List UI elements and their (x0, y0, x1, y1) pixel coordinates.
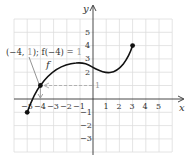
y-tick: −1 (80, 108, 92, 117)
y-tick: −3 (80, 134, 92, 143)
function-graph: x y −5 −4 −3 −2 −1 1 2 3 4 5 5 4 3 2 −1 … (0, 0, 189, 155)
y-tick: 3 (85, 54, 90, 63)
y-axis-value-marker: 1 (95, 81, 100, 90)
x-axis-label: x (179, 102, 185, 113)
function-label: f (45, 59, 52, 70)
x-tick: 1 (104, 102, 109, 111)
x-tick: 4 (143, 102, 148, 111)
x-tick: 3 (130, 102, 135, 111)
highlight-point (38, 83, 43, 88)
y-tick: 4 (85, 41, 90, 50)
y-tick: 5 (85, 28, 90, 37)
y-tick: −2 (80, 121, 92, 130)
endpoint-right (130, 43, 135, 48)
y-tick: 2 (85, 68, 90, 77)
x-tick: −2 (60, 102, 72, 111)
annotation-point-text: (−4, (6, 47, 27, 57)
annotation-value: 1 (76, 47, 81, 57)
y-axis-label: y (82, 3, 89, 14)
annotation-pointer (29, 57, 39, 84)
x-tick: 2 (117, 102, 122, 111)
axes (14, 5, 184, 155)
endpoint-left (25, 110, 30, 115)
x-tick: −3 (47, 102, 59, 111)
x-tick: 5 (156, 102, 161, 111)
x-tick: −4 (34, 102, 46, 111)
point-annotation: (−4, 1); f(−4) = 1 (6, 47, 82, 57)
annotation-mid-text: ); f(−4) = (33, 47, 77, 57)
